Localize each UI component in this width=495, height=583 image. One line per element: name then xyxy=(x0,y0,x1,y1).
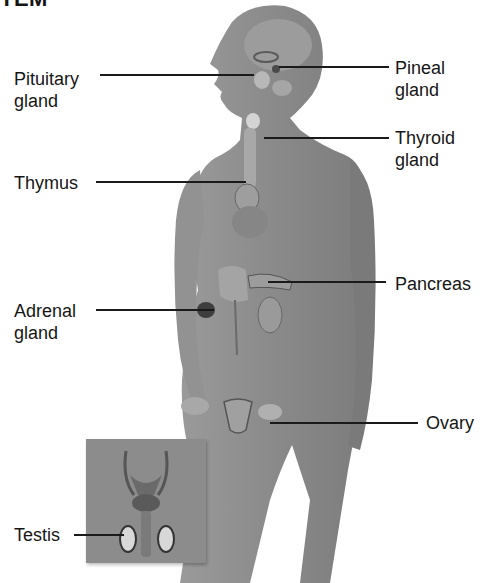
leader-line-ovary xyxy=(270,422,418,424)
leader-line-pancreas xyxy=(268,281,386,283)
testis-organ xyxy=(120,526,136,552)
label-pineal-gland: Pineal gland xyxy=(395,57,445,101)
trachea xyxy=(244,128,256,188)
liver-shape xyxy=(218,266,248,302)
male-anatomy-drawing xyxy=(86,439,206,563)
left-ovary xyxy=(181,397,209,415)
label-testis: Testis xyxy=(14,524,60,546)
male-reproductive-inset xyxy=(86,439,206,563)
label-pancreas: Pancreas xyxy=(395,273,471,295)
leader-line-thymus xyxy=(96,181,246,183)
kidney-shape xyxy=(258,297,282,333)
leader-line-adrenal xyxy=(96,309,214,311)
leader-line-testis xyxy=(74,534,124,536)
leader-line-thyroid xyxy=(264,137,389,139)
thyroid-organ xyxy=(246,113,260,129)
pituitary-organ xyxy=(254,71,270,89)
label-adrenal-gland: Adrenal gland xyxy=(14,300,76,344)
brain-shape xyxy=(244,19,312,71)
label-pituitary-gland: Pituitary gland xyxy=(14,68,79,112)
leader-line-pineal xyxy=(279,66,389,68)
label-thymus: Thymus xyxy=(14,172,78,194)
heart-shape xyxy=(232,206,268,238)
ovary-organ xyxy=(258,404,282,420)
cerebellum xyxy=(272,80,292,96)
label-thyroid-gland: Thyroid gland xyxy=(395,127,455,171)
leader-line-pituitary xyxy=(100,74,254,76)
label-ovary: Ovary xyxy=(426,412,474,434)
